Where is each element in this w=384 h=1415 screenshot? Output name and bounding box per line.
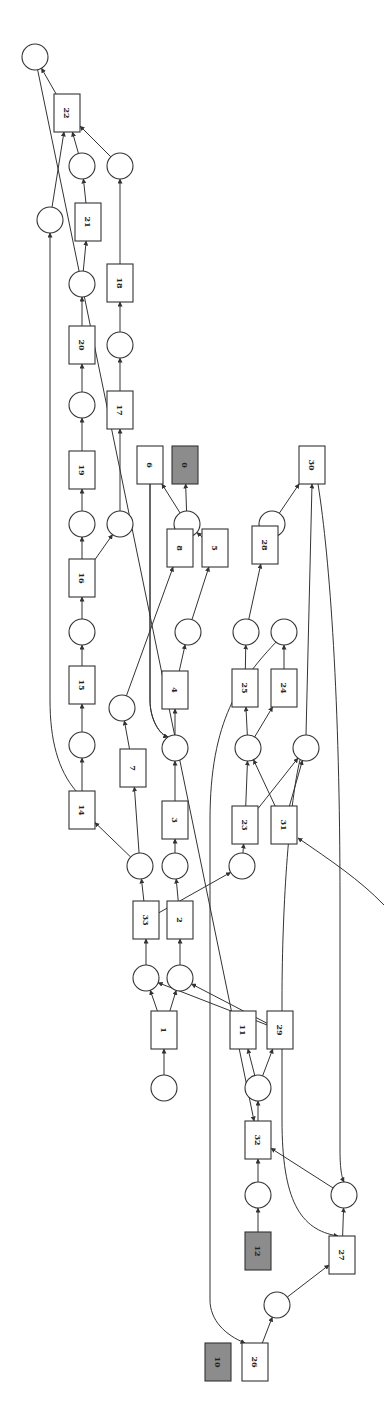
arc-26-to-p_ad [262,1317,272,1343]
arc-p_l-to-5 [192,567,209,620]
transition-24: 24 [271,669,297,707]
petri-net-diagram: 2221182017196030168528154252471432331332… [0,0,384,1415]
arc-31-to-p_s [254,760,276,806]
transition-label: 32 [253,1134,263,1145]
transition-label: 33 [141,914,151,926]
place-node [69,271,95,297]
transition-label: 17 [115,404,125,415]
transition-label: 3 [170,817,180,823]
transition-18: 18 [107,264,133,302]
arc-p_s-to-24 [255,707,273,737]
transition-label: 15 [77,679,87,690]
transition-25: 25 [232,669,258,707]
transition-23: 23 [232,806,258,844]
transition-label: 20 [77,339,87,351]
arc-p_c-to-22 [80,126,111,157]
place-node [245,1182,271,1208]
transition-8: 8 [167,529,193,567]
place-node [69,392,95,418]
place-node [107,511,133,537]
arc-4-to-p_l [179,645,185,671]
transition-1: 1 [151,1011,177,1049]
transition-label: 14 [77,804,87,816]
transition-label: 30 [307,459,317,471]
transition-label: 5 [210,545,220,551]
arc-5-to-p_i [197,532,202,536]
transition-label: 2 [175,917,185,923]
arc-p_ad-to-27 [287,1265,329,1297]
place-node [245,1075,271,1101]
transition-17: 17 [107,391,133,429]
transition-label: 10 [213,1356,223,1368]
place-node [133,965,159,991]
place-node [151,1075,177,1101]
place-node [37,207,63,233]
arc-p_m-to-28 [249,564,261,619]
place-node [293,735,319,761]
transition-14: 14 [69,791,95,829]
arc-21-to-p_b [83,179,86,203]
transition-label: 24 [279,682,289,694]
transition-27: 27 [329,1236,355,1274]
arc-14-to-p_a [50,233,76,791]
transition-22: 22 [54,94,80,132]
transition-label: 8 [175,545,185,551]
transition-6: 6 [137,446,163,484]
place-node [271,619,297,645]
arcs-layer [38,68,384,1343]
transition-19: 19 [69,451,95,489]
arc-1-to-p_y [170,990,176,1011]
transition-7: 7 [120,749,146,787]
place-node [162,853,188,879]
transition-10: 10 [205,1343,231,1381]
transition-15: 15 [69,666,95,704]
place-node [235,735,261,761]
transition-16: 16 [69,559,95,597]
transition-label: 29 [275,1024,285,1036]
transition-label: 18 [115,277,125,289]
transition-21: 21 [75,203,101,241]
arc-p_aa-to-11 [248,1049,255,1075]
transition-label: 0 [180,462,190,468]
place-node [109,695,135,721]
arc-1-to-p_x [150,990,157,1011]
place-node [264,1292,290,1318]
place-node [167,965,193,991]
place-node [107,332,133,358]
transition-12: 12 [245,1232,271,1270]
arc-33-to-p_u [141,879,143,901]
transition-3: 3 [162,801,188,839]
transition-label: 7 [128,765,138,771]
place-node [233,619,259,645]
place-node [127,853,153,879]
transition-label: 31 [279,819,289,830]
arc-p_d-to-21 [83,241,86,271]
transition-label: 22 [62,107,72,118]
arc-31-to-p_t [289,760,302,806]
arc-p_t-to-30 [306,484,312,735]
transition-label: 23 [240,819,250,831]
transition-label: 16 [77,572,87,584]
place-node [22,44,48,70]
place-node [162,735,188,761]
place-node [175,619,201,645]
transition-11: 11 [230,1011,256,1049]
transition-26: 26 [242,1343,268,1381]
transition-label: 4 [170,687,180,693]
arc-p_u-to-14 [95,823,131,857]
arc-p_aa-to-29 [263,1049,273,1076]
transition-label: 27 [337,1249,347,1260]
transition-4: 4 [162,671,188,709]
arc-30-to-p_ac [318,484,344,1182]
arc-p_i-to-6 [162,484,180,513]
place-node [69,153,95,179]
arc-22-to-p_end [41,68,56,94]
arc-16-to-p_g [95,535,113,560]
arc-p_ae-to-31 [298,838,384,905]
place-node [107,153,133,179]
arc-2-to-p_v [176,879,178,901]
arc-23-to-p_t [258,758,298,808]
place-node [229,853,255,879]
arc-27-to-p_ac [343,1208,344,1236]
place-node [69,732,95,758]
